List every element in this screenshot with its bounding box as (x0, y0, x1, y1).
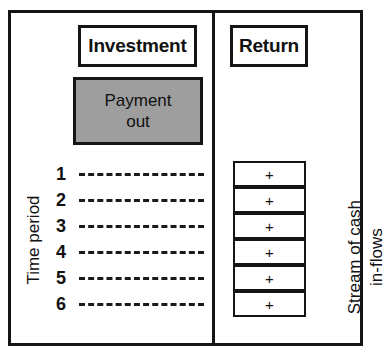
cash-inflow-stack: ++++++ (233, 161, 306, 318)
payment-out-block: Payment out (73, 77, 203, 145)
cash-inflow-cell: + (233, 161, 306, 187)
time-period-dashed-line (79, 277, 204, 280)
time-period-number: 3 (56, 217, 76, 235)
time-period-row: 2 (56, 187, 204, 213)
time-period-dashed-line (79, 173, 204, 176)
time-period-row: 6 (56, 291, 204, 317)
cash-inflow-cell: + (233, 265, 306, 291)
time-period-row: 4 (56, 239, 204, 265)
time-period-dashed-line (79, 251, 204, 254)
payment-out-line2: out (126, 111, 150, 132)
time-period-axis-label: Time period (24, 180, 44, 300)
time-period-number: 6 (56, 295, 76, 313)
stream-label-line2: in-flows (366, 172, 387, 342)
stream-of-cash-axis-label: Stream of cash in-flows (344, 172, 387, 342)
investment-header-label: Investment (88, 35, 186, 57)
time-period-rows: 123456 (56, 161, 204, 318)
cash-inflow-cell: + (233, 239, 306, 265)
cash-inflow-cell: + (233, 213, 306, 239)
time-period-number: 5 (56, 269, 76, 287)
panel-divider (212, 10, 215, 346)
investment-header-box: Investment (78, 25, 197, 67)
return-header-label: Return (239, 35, 299, 57)
time-period-row: 3 (56, 213, 204, 239)
cash-inflow-cell: + (233, 291, 306, 317)
time-period-row: 5 (56, 265, 204, 291)
time-period-dashed-line (79, 199, 204, 202)
time-period-row: 1 (56, 161, 204, 187)
cash-inflow-cell: + (233, 187, 306, 213)
time-period-dashed-line (79, 303, 204, 306)
time-period-number: 2 (56, 191, 76, 209)
time-period-dashed-line (79, 225, 204, 228)
time-period-number: 1 (56, 165, 76, 183)
payment-out-line1: Payment (104, 90, 171, 111)
return-header-box: Return (230, 25, 308, 67)
stream-label-line1: Stream of cash (344, 172, 366, 342)
time-period-number: 4 (56, 243, 76, 261)
